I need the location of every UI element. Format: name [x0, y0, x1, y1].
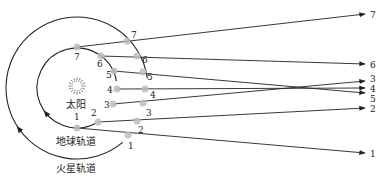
sky-position-label-5: 5	[370, 94, 376, 104]
sky-position-label-2: 2	[370, 104, 376, 114]
sun-icon	[69, 78, 86, 95]
earth-position-point-1	[74, 125, 81, 132]
earth-position-point-4	[114, 86, 121, 93]
mars-position-point-3	[140, 100, 147, 107]
earth-orbit-direction-arrow-icon	[46, 113, 47, 115]
earth-position-point-3	[110, 101, 117, 108]
sight-line-7	[77, 14, 365, 47]
mars-position-point-5	[140, 69, 147, 76]
mars-position-label-2: 2	[138, 125, 144, 135]
earth-position-label-3: 3	[104, 100, 110, 110]
earth-position-label-1: 1	[74, 112, 80, 122]
mars-orbit-direction-arrow-icon	[19, 129, 21, 132]
earth-position-point-7	[74, 44, 81, 51]
mars-position-label-1: 1	[128, 141, 134, 151]
earth-position-label-7: 7	[74, 52, 80, 62]
mars-position-point-2	[134, 118, 141, 125]
sight-line-1	[77, 128, 365, 153]
sky-position-label-6: 6	[370, 60, 376, 70]
mars-position-point-4	[142, 86, 149, 93]
earth-orbit-label: 地球轨道	[56, 135, 96, 147]
sky-position-label-4: 4	[370, 84, 376, 94]
earth-position-label-5: 5	[106, 70, 112, 80]
mars-position-label-6: 6	[142, 55, 148, 65]
mars-position-label-4: 4	[150, 90, 156, 100]
sun-label: 太阳	[66, 98, 86, 110]
mars-position-points: 1234567	[124, 30, 157, 151]
sky-position-label-7: 7	[370, 10, 376, 20]
earth-position-point-2	[95, 119, 102, 126]
earth-position-label-2: 2	[91, 108, 97, 118]
mars-position-point-1	[125, 132, 132, 139]
mars-retrograde-diagram: 1234567 1234567 1234567 太阳 地球轨道 火星轨道	[0, 0, 382, 178]
sight-line-6	[101, 56, 365, 64]
earth-position-label-4: 4	[107, 85, 113, 95]
sight-line-4	[117, 88, 365, 89]
mars-position-label-5: 5	[147, 72, 153, 82]
mars-position-label-3: 3	[146, 108, 152, 118]
mars-orbit-label: 火星轨道	[56, 162, 96, 174]
sky-position-label-3: 3	[370, 74, 376, 84]
mars-position-point-7	[124, 38, 131, 45]
sky-position-label-1: 1	[370, 149, 376, 159]
earth-position-label-6: 6	[97, 59, 103, 69]
mars-position-label-7: 7	[131, 30, 137, 40]
mars-position-point-6	[134, 53, 141, 60]
